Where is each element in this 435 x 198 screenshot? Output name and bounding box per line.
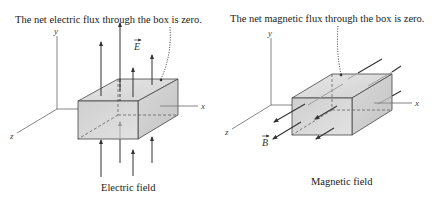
magnetic-box	[292, 72, 392, 135]
annotation-leader	[337, 26, 341, 74]
field-line	[392, 66, 401, 72]
leader-dot	[160, 79, 163, 82]
field-line	[358, 59, 382, 73]
flux-diagram: y x z	[0, 0, 435, 198]
z-axis	[232, 105, 271, 129]
magnetic-flux-annotation: The net magnetic flux through the box is…	[230, 13, 425, 25]
y-axis-label: y	[53, 26, 58, 36]
leader-dot	[340, 74, 343, 77]
x-axis-label: x	[414, 98, 419, 108]
electric-panel: y x z	[9, 23, 205, 177]
electric-flux-annotation: The net electric flux through the box is…	[15, 14, 202, 26]
z-axis	[17, 109, 57, 133]
annotation-leader	[161, 27, 170, 79]
field-line	[392, 91, 401, 96]
diagram-canvas: y x z	[0, 0, 435, 198]
z-axis-label: z	[9, 131, 14, 141]
z-axis-label: z	[224, 127, 229, 137]
electric-field-caption: Electric field	[101, 182, 156, 194]
magnetic-panel: y x z	[224, 26, 419, 148]
vector-label-e: E	[133, 41, 140, 52]
x-axis-label: x	[200, 101, 205, 111]
y-axis-label: y	[267, 28, 272, 38]
vector-label-b: B	[262, 137, 268, 148]
electric-incoming-arrows	[101, 137, 152, 177]
magnetic-field-caption: Magnetic field	[311, 176, 373, 188]
electric-box	[78, 79, 178, 139]
